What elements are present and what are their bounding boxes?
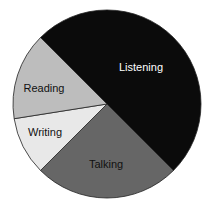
label-reading: Reading — [24, 82, 65, 94]
label-writing: Writing — [28, 126, 62, 138]
pie-chart: Listening Talking Writing Reading — [0, 0, 215, 206]
label-talking: Talking — [89, 158, 123, 170]
label-listening: Listening — [119, 61, 163, 73]
